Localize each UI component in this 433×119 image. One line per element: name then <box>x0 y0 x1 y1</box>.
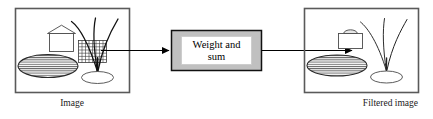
blurred-house-shape <box>339 30 363 49</box>
figure-container: Image Weight and sum <box>0 0 433 119</box>
ground-ellipse <box>371 71 403 83</box>
process-box-label-line1: Weight and <box>193 39 242 50</box>
right-panel-caption: Filtered image <box>363 98 418 108</box>
tree-branches <box>361 19 408 77</box>
blurred-house-body <box>339 34 363 49</box>
hatched-ellipse <box>307 55 367 76</box>
left-panel-caption: Image <box>60 98 84 108</box>
weight-and-sum-box: Weight and sum <box>172 31 262 71</box>
house-body <box>50 34 74 52</box>
diagram-canvas: Image Weight and sum <box>0 0 433 119</box>
ground-ellipse <box>82 72 114 84</box>
hatched-ellipse <box>18 55 78 78</box>
process-box-label-line2: sum <box>208 51 226 62</box>
blurred-house-roof <box>344 30 358 34</box>
